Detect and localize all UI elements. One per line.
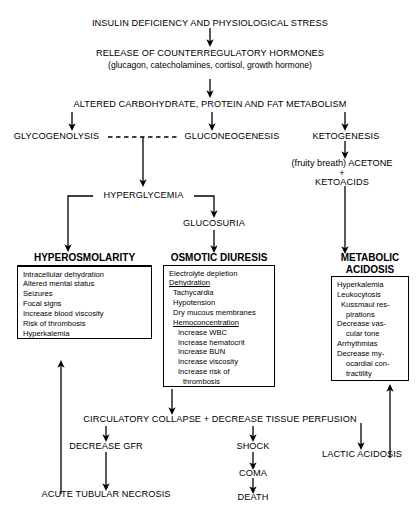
node-shock: SHOCK xyxy=(213,441,293,451)
list-item: thrombosis xyxy=(169,377,270,387)
node-glycogenolysis: GLYCOGENOLYSIS xyxy=(4,131,109,141)
list-item: cular tone xyxy=(337,329,404,339)
node-acute-tubular-necrosis: ACUTE TUBULAR NECROSIS xyxy=(16,489,196,499)
list-item: Increase BUN xyxy=(169,347,270,357)
node-hyperglycemia: HYPERGLYCEMIA xyxy=(90,190,197,200)
arrow-hyperglycemia-to-glucosuria xyxy=(194,196,214,214)
node-glucosuria: GLUCOSURIA xyxy=(162,218,266,228)
list-item: Risk of thrombosis xyxy=(23,319,147,329)
dka-pathophysiology-flowchart: INSULIN DEFICIENCY AND PHYSIOLOGICAL STR… xyxy=(0,0,420,514)
node-circulatory-collapse: CIRCULATORY COLLAPSE + DECREASE TISSUE P… xyxy=(60,414,380,424)
box-metabolic-acidosis-title-line2: ACIDOSIS xyxy=(331,265,409,277)
arrow-hyperglycemia-to-hyperosmolarity xyxy=(68,196,93,248)
box-hyperosmolarity-title: HYPEROSMOLARITY xyxy=(17,253,152,267)
node-release-hormones: RELEASE OF COUNTERREGULATORY HORMONES xyxy=(0,48,420,58)
list-subheading: Hemoconcentration xyxy=(169,318,270,328)
list-item: Increase risk of xyxy=(169,367,270,377)
box-metabolic-acidosis: METABOLIC ACIDOSIS Hyperkalemia Leukocyt… xyxy=(331,253,409,381)
list-item: pirations xyxy=(337,310,404,320)
box-hyperosmolarity-body: Intracellular dehydration Altered mental… xyxy=(17,267,152,339)
list-item: Altered mental status xyxy=(23,279,147,289)
node-coma: COMA xyxy=(213,468,293,478)
list-subheading: Dehydration xyxy=(169,278,270,288)
list-item: Hypotension xyxy=(169,298,270,308)
list-item: Decrease my- xyxy=(337,349,404,359)
node-death: DEATH xyxy=(213,492,293,502)
node-release-hormones-detail: (glucagon, catecholamines, cortisol, gro… xyxy=(0,61,420,71)
list-item: Leukocytosis xyxy=(337,290,404,300)
node-ketoacids: KETOACIDS xyxy=(264,177,420,187)
list-item: Arrhythmias xyxy=(337,339,404,349)
list-item: Increase blood viscosity xyxy=(23,309,147,319)
list-item: Decrease vas- xyxy=(337,319,404,329)
list-item: Intracellular dehydration xyxy=(23,270,147,280)
list-item: Electrolyte depletion xyxy=(169,269,270,279)
node-gluconeogenesis: GLUCONEOGENESIS xyxy=(176,131,288,141)
list-item: ocardial con- xyxy=(337,359,404,369)
box-osmotic-diuresis-title: OSMOTIC DIURESIS xyxy=(163,253,275,265)
list-item: Increase WBC xyxy=(169,328,270,338)
box-osmotic-diuresis-body: Electrolyte depletion Dehydration Tachyc… xyxy=(163,265,275,387)
list-item: Increase hematocrit xyxy=(169,338,270,348)
node-altered-metabolism: ALTERED CARBOHYDRATE, PROTEIN AND FAT ME… xyxy=(0,99,420,109)
box-osmotic-diuresis: OSMOTIC DIURESIS Electrolyte depletion D… xyxy=(163,253,275,387)
box-metabolic-acidosis-body: Hyperkalemia Leukocytosis Kussmaul res- … xyxy=(331,276,409,381)
list-item: tractility xyxy=(337,369,404,379)
node-ketogenesis: KETOGENESIS xyxy=(298,131,394,141)
list-item: Increase viscosity xyxy=(169,357,270,367)
node-acetone: (fruity breath) ACETONE xyxy=(264,158,420,168)
list-item: Seizures xyxy=(23,289,147,299)
list-item: Dry mucous membranes xyxy=(169,308,270,318)
list-item: Kussmaul res- xyxy=(337,300,404,310)
list-item: Tachycardia xyxy=(169,288,270,298)
list-item: Hyperkalemia xyxy=(23,329,147,339)
list-item: Focal signs xyxy=(23,299,147,309)
node-insulin-deficiency: INSULIN DEFICIENCY AND PHYSIOLOGICAL STR… xyxy=(0,18,420,28)
node-lactic-acidosis: LACTIC ACIDOSIS xyxy=(308,449,416,459)
box-hyperosmolarity: HYPEROSMOLARITY Intracellular dehydratio… xyxy=(17,253,152,339)
list-item: Hyperkalemia xyxy=(337,280,404,290)
node-decrease-gfr: DECREASE GFR xyxy=(50,441,162,451)
box-metabolic-acidosis-title-line1: METABOLIC xyxy=(331,253,409,265)
